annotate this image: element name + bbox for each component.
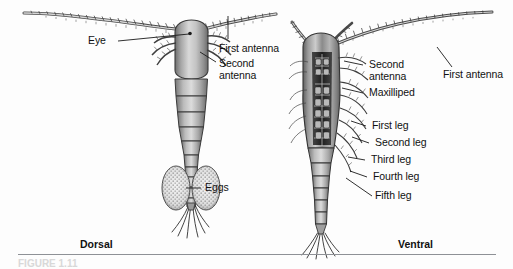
label-first-leg: First leg: [372, 120, 408, 131]
orientation-label-dorsal: Dorsal: [80, 238, 113, 250]
label-ventral-second-antenna: Second antenna: [369, 59, 425, 82]
dorsal-caudal-setae: [172, 206, 209, 238]
label-fourth-leg: Fourth leg: [373, 171, 419, 182]
dorsal-thorax-segments: [175, 79, 208, 155]
label-eye: Eye: [88, 35, 106, 46]
copepod-illustration: [0, 0, 513, 269]
ventral-caudal-setae: [302, 233, 339, 259]
caption-divider-rule: [18, 254, 496, 255]
leader-lines: [118, 16, 452, 196]
ventral-urosome: [308, 148, 334, 224]
figure-caption: FIGURE 1.11: [18, 258, 77, 269]
label-dorsal-first-antenna: First antenna: [219, 43, 279, 54]
label-eggs: Eggs: [205, 182, 229, 193]
dorsal-caudal-rami: [187, 203, 195, 210]
label-maxilliped: Maxilliped: [369, 87, 415, 98]
figure-copepod-anatomy: Eye First antenna Second antenna Eggs Se…: [0, 0, 513, 269]
dorsal-cephalosome: [175, 20, 208, 79]
label-ventral-first-antenna: First antenna: [443, 69, 503, 80]
label-third-leg: Third leg: [371, 154, 411, 165]
label-dorsal-second-antenna: Second antenna: [219, 58, 275, 81]
label-fifth-leg: Fifth leg: [375, 190, 411, 201]
label-second-leg: Second leg: [375, 137, 427, 148]
ventral-caudal-rami: [316, 224, 327, 234]
ventral-first-antenna-right: [331, 11, 492, 47]
dorsal-first-antenna-right: [200, 13, 276, 33]
dorsal-first-antenna-left: [24, 11, 183, 35]
orientation-label-ventral: Ventral: [398, 238, 433, 250]
ventral-specimen: [289, 11, 492, 260]
eye-marker: [188, 32, 192, 36]
